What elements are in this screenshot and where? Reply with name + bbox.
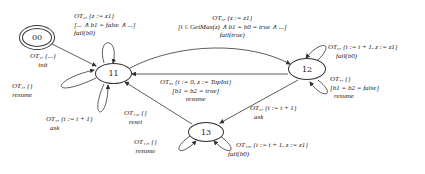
state-label: 11 <box>108 69 118 78</box>
state-label: 12 <box>302 65 312 74</box>
label-12-self-bottom: OT₇, {} [b1 = b2 = false] resume <box>330 75 379 101</box>
label-00-11: OT₁, {...} init <box>30 52 56 69</box>
label-11-self-left: OT₄, {} resume <box>12 82 32 99</box>
edge-00-11 <box>52 44 96 66</box>
edge-11-12 <box>130 48 290 68</box>
edge-11-self-left <box>61 70 96 88</box>
label-13-self-right: OT₁₀, {t := t + 1, z := z1} fail(b0) <box>236 141 308 158</box>
state-label: 13 <box>201 128 211 137</box>
edge-11-self-bottom <box>98 84 108 112</box>
state-label: 00 <box>32 33 42 42</box>
state-node-12: 12 <box>288 58 326 80</box>
label-12-self-top: OT₆, {t := t + 1, z := z1} fail(b0) <box>328 43 398 60</box>
state-node-11: 11 <box>95 63 132 84</box>
state-node-00: 00 <box>22 28 52 47</box>
state-node-13: 13 <box>188 122 224 142</box>
label-11-self-bottom: OT₅, {t := t + 1} ask <box>46 115 93 132</box>
label-11-self-top: OT₂, {z := z1} [... ∧ b1 = false ∧ ...] … <box>74 12 135 38</box>
edge-12-self-bottom <box>310 80 327 94</box>
label-13-self-left: OT₁₁, {} resume <box>134 138 157 155</box>
label-13-11: OT₁₂, {} reset <box>124 109 147 126</box>
edge-11-self-top <box>102 43 114 63</box>
label-11-12: OT₃, {z := z1} [t ≤ GetMax(z) ∧ b1 = b0 … <box>178 14 287 40</box>
label-12-13: OT₉, {t := t + 1} ask <box>250 104 297 121</box>
label-12-11: OT₈, {t := 0, z := TopInt} [b1 = b2 = tr… <box>160 78 231 104</box>
